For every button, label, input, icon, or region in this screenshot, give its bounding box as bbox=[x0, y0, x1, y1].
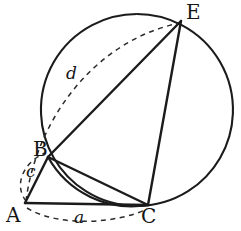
vertex-label-e: E bbox=[186, 2, 201, 22]
vertex-label-b: B bbox=[33, 139, 48, 159]
dashed-arc-ae bbox=[26, 23, 180, 201]
dashed-arc-ac bbox=[27, 208, 147, 221]
main-circle bbox=[41, 14, 233, 206]
vertex-label-c: C bbox=[141, 206, 156, 226]
measure-label-d: d bbox=[66, 65, 77, 82]
measure-label-a: a bbox=[74, 209, 84, 226]
measure-label-c: c bbox=[26, 163, 36, 180]
segment-ac bbox=[25, 203, 148, 205]
vertex-label-a: A bbox=[6, 205, 20, 225]
geometry-figure: A B C E a c d bbox=[0, 0, 241, 231]
figure-canvas bbox=[0, 0, 241, 231]
